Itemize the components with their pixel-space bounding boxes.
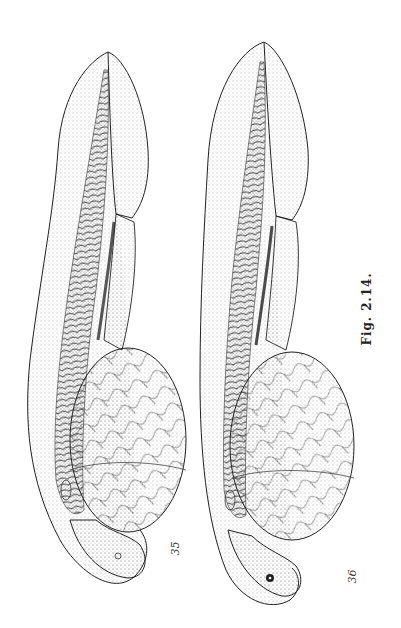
panel-label-35: 35 xyxy=(169,542,182,556)
figure-plate xyxy=(0,0,401,628)
panel-label-36: 36 xyxy=(346,570,359,584)
figure-caption: Fig. 2.14. xyxy=(360,272,374,345)
embryo-35-tail-fin xyxy=(108,52,148,218)
embryo-36 xyxy=(200,42,354,605)
embryo-35 xyxy=(28,52,186,583)
